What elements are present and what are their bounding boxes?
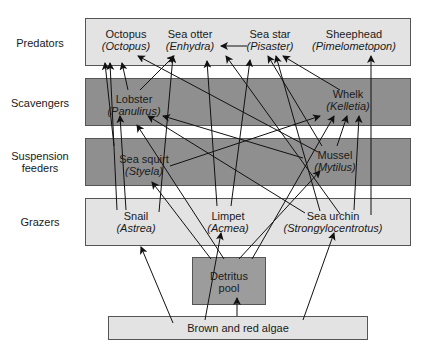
node-sea-star: Sea star (Pisaster) bbox=[246, 28, 293, 52]
node-scientific-name: (Styela) bbox=[119, 165, 169, 177]
node-lobster: Lobster (Panulirus) bbox=[107, 93, 160, 117]
node-common-name: Sea otter bbox=[166, 28, 214, 40]
node-sea-otter: Sea otter (Enhydra) bbox=[166, 28, 214, 52]
node-common-name: Sheephead bbox=[312, 28, 396, 40]
node-scientific-name: (Octopus) bbox=[102, 40, 150, 52]
node-scientific-name: (Panulirus) bbox=[107, 105, 160, 117]
node-snail: Snail (Astrea) bbox=[116, 210, 155, 234]
node-label-line2: pool bbox=[210, 282, 248, 294]
node-octopus: Octopus (Octopus) bbox=[102, 28, 150, 52]
node-scientific-name: (Astrea) bbox=[116, 222, 155, 234]
node-label-line1: Detritus bbox=[210, 270, 248, 282]
node-scientific-name: (Acmea) bbox=[207, 222, 249, 234]
node-common-name: Sea urchin bbox=[283, 210, 382, 222]
node-common-name: Whelk bbox=[326, 88, 369, 100]
node-label: Brown and red algae bbox=[187, 322, 289, 334]
node-mussel: Mussel (Mytilus) bbox=[314, 149, 356, 173]
node-common-name: Lobster bbox=[107, 93, 160, 105]
node-scientific-name: (Mytilus) bbox=[314, 161, 356, 173]
node-scientific-name: (Pisaster) bbox=[246, 40, 293, 52]
node-common-name: Sea squirt bbox=[119, 153, 169, 165]
node-scientific-name: (Pimelometopon) bbox=[312, 40, 396, 52]
node-detritus-pool: Detritus pool bbox=[210, 270, 248, 294]
node-sea-squirt: Sea squirt (Styela) bbox=[119, 153, 169, 177]
node-limpet: Limpet (Acmea) bbox=[207, 210, 249, 234]
node-common-name: Octopus bbox=[102, 28, 150, 40]
node-common-name: Mussel bbox=[314, 149, 356, 161]
node-common-name: Sea star bbox=[246, 28, 293, 40]
node-sheephead: Sheephead (Pimelometopon) bbox=[312, 28, 396, 52]
node-algae: Brown and red algae bbox=[187, 322, 289, 334]
node-scientific-name: (Kelletia) bbox=[326, 100, 369, 112]
node-whelk: Whelk (Kelletia) bbox=[326, 88, 369, 112]
node-scientific-name: (Strongylocentrotus) bbox=[283, 222, 382, 234]
node-sea-urchin: Sea urchin (Strongylocentrotus) bbox=[283, 210, 382, 234]
food-web-arrows bbox=[0, 0, 433, 358]
node-common-name: Snail bbox=[116, 210, 155, 222]
node-common-name: Limpet bbox=[207, 210, 249, 222]
node-scientific-name: (Enhydra) bbox=[166, 40, 214, 52]
